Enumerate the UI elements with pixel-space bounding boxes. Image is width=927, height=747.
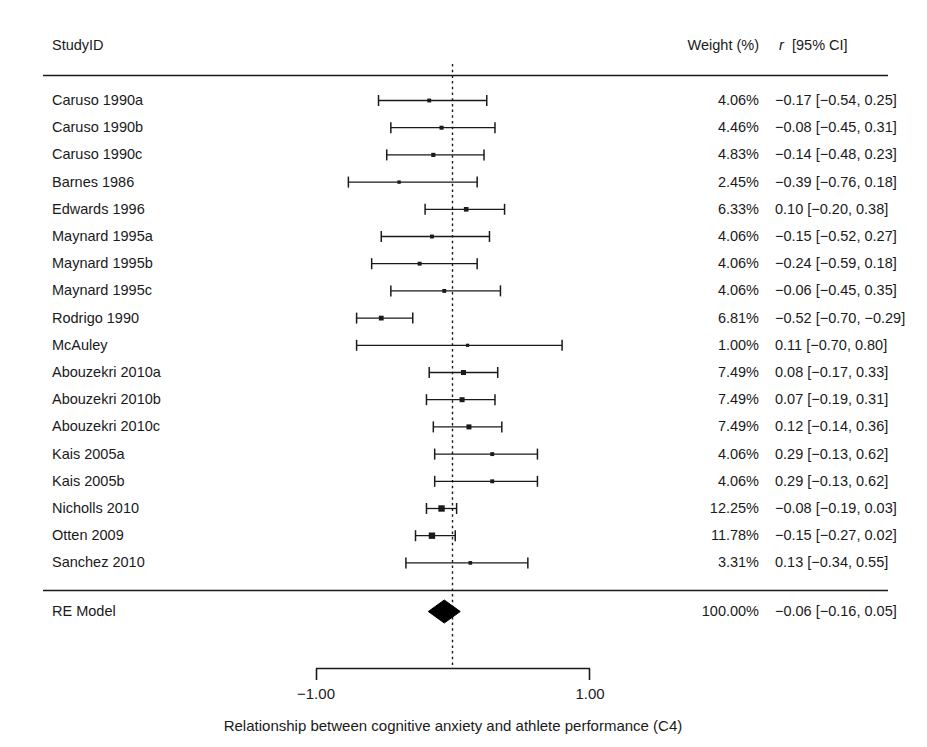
effect-point-marker — [397, 180, 400, 183]
effect-point-marker — [440, 126, 444, 130]
effect-point-marker — [464, 207, 469, 212]
study-estimate-ci: −0.15 [−0.27, 0.02] — [775, 527, 897, 543]
study-weight: 4.06% — [718, 92, 759, 108]
study-label: Caruso 1990c — [52, 146, 142, 162]
effect-point-marker — [466, 424, 471, 429]
summary-diamond — [428, 600, 460, 623]
study-weight: 4.83% — [718, 146, 759, 162]
study-weight: 4.06% — [718, 282, 759, 298]
study-label: Abouzekri 2010a — [52, 364, 162, 380]
forest-row: Rodrigo 19906.81%−0.52 [−0.70, −0.29] — [52, 310, 905, 326]
effect-point-marker — [379, 316, 384, 321]
study-label: Maynard 1995a — [52, 228, 154, 244]
x-axis: −1.00 1.00 — [297, 669, 605, 703]
study-label: Otten 2009 — [52, 527, 124, 543]
forest-row: Abouzekri 2010b7.49%0.07 [−0.19, 0.31] — [52, 391, 888, 407]
study-label: Rodrigo 1990 — [52, 310, 139, 326]
study-weight: 7.49% — [718, 418, 759, 434]
figure-caption: Relationship between cognitive anxiety a… — [224, 717, 683, 734]
axis-tick-label-right: 1.00 — [575, 685, 604, 702]
summary-weight: 100.00% — [702, 603, 759, 619]
summary-estimate: −0.06 [−0.16, 0.05] — [775, 603, 897, 619]
study-label: Abouzekri 2010c — [52, 418, 160, 434]
study-estimate-ci: 0.11 [−0.70, 0.80] — [775, 337, 887, 353]
study-label: Edwards 1996 — [52, 201, 145, 217]
forest-row: Kais 2005a4.06%0.29 [−0.13, 0.62] — [52, 446, 888, 462]
forest-row: Caruso 1990b4.46%−0.08 [−0.45, 0.31] — [52, 119, 897, 135]
study-weight: 6.81% — [718, 310, 759, 326]
study-weight: 4.06% — [718, 473, 759, 489]
forest-row: Kais 2005b4.06%0.29 [−0.13, 0.62] — [52, 473, 888, 489]
study-weight: 3.31% — [718, 554, 759, 570]
axis-tick-label-left: −1.00 — [297, 685, 335, 702]
effect-point-marker — [442, 289, 446, 293]
study-estimate-ci: −0.52 [−0.70, −0.29] — [775, 310, 905, 326]
study-weight: 7.49% — [718, 364, 759, 380]
study-estimate-ci: −0.06 [−0.45, 0.35] — [775, 282, 897, 298]
header-weight: Weight (%) — [688, 37, 759, 53]
study-weight: 4.06% — [718, 255, 759, 271]
effect-point-marker — [490, 479, 494, 483]
forest-row: Barnes 19862.45%−0.39 [−0.76, 0.18] — [52, 174, 897, 190]
study-weight: 11.78% — [711, 527, 759, 543]
study-estimate-ci: −0.08 [−0.45, 0.31] — [775, 119, 897, 135]
forest-row: Abouzekri 2010a7.49%0.08 [−0.17, 0.33] — [52, 364, 888, 380]
study-label: Maynard 1995b — [52, 255, 153, 271]
forest-row: Nicholls 201012.25%−0.08 [−0.19, 0.03] — [52, 500, 897, 516]
forest-row: Caruso 1990a4.06%−0.17 [−0.54, 0.25] — [52, 92, 897, 108]
forest-row: Sanchez 20103.31%0.13 [−0.34, 0.55] — [52, 554, 888, 570]
study-weight: 4.06% — [718, 228, 759, 244]
effect-point-marker — [438, 505, 444, 511]
effect-point-marker — [490, 452, 494, 456]
study-label: Nicholls 2010 — [52, 500, 139, 516]
study-estimate-ci: 0.29 [−0.13, 0.62] — [775, 473, 888, 489]
forest-row: Otten 200911.78%−0.15 [−0.27, 0.02] — [52, 527, 897, 543]
study-label: Abouzekri 2010b — [52, 391, 161, 407]
study-estimate-ci: 0.07 [−0.19, 0.31] — [775, 391, 888, 407]
effect-point-marker — [427, 99, 431, 103]
study-estimate-ci: 0.13 [−0.34, 0.55] — [775, 554, 888, 570]
study-estimate-ci: −0.24 [−0.59, 0.18] — [775, 255, 897, 271]
header-estimate-ci: [95% CI] — [792, 37, 848, 53]
effect-point-marker — [429, 533, 435, 539]
study-estimate-ci: 0.12 [−0.14, 0.36] — [775, 418, 888, 434]
study-label: Sanchez 2010 — [52, 554, 145, 570]
forest-plot-canvas: StudyID Weight (%) r [95% CI] Caruso 199… — [0, 0, 927, 747]
study-label: Kais 2005b — [52, 473, 125, 489]
study-label: Caruso 1990b — [52, 119, 143, 135]
forest-row: McAuley1.00%0.11 [−0.70, 0.80] — [52, 337, 887, 353]
forest-row: Maynard 1995a4.06%−0.15 [−0.52, 0.27] — [52, 228, 897, 244]
study-weight: 6.33% — [718, 201, 759, 217]
effect-point-marker — [430, 235, 434, 239]
effect-point-marker — [461, 370, 466, 375]
study-weight: 1.00% — [718, 337, 759, 353]
study-weight: 7.49% — [718, 391, 759, 407]
study-estimate-ci: 0.10 [−0.20, 0.38] — [775, 201, 888, 217]
forest-row: Edwards 19966.33%0.10 [−0.20, 0.38] — [52, 201, 888, 217]
study-weight: 4.46% — [718, 119, 759, 135]
effect-point-marker — [468, 561, 472, 565]
study-weight: 4.06% — [718, 446, 759, 462]
study-estimate-ci: −0.08 [−0.19, 0.03] — [775, 500, 897, 516]
effect-point-marker — [418, 262, 422, 266]
study-weight: 12.25% — [710, 500, 759, 516]
study-label: Caruso 1990a — [52, 92, 144, 108]
study-estimate-ci: 0.08 [−0.17, 0.33] — [775, 364, 888, 380]
header-studyid: StudyID — [52, 37, 104, 53]
forest-row: Abouzekri 2010c7.49%0.12 [−0.14, 0.36] — [52, 418, 888, 434]
study-estimate-ci: −0.17 [−0.54, 0.25] — [775, 92, 897, 108]
forest-row: Maynard 1995b4.06%−0.24 [−0.59, 0.18] — [52, 255, 897, 271]
study-weight: 2.45% — [718, 174, 759, 190]
study-estimate-ci: −0.14 [−0.48, 0.23] — [775, 146, 897, 162]
study-rows: Caruso 1990a4.06%−0.17 [−0.54, 0.25]Caru… — [52, 92, 905, 570]
effect-point-marker — [466, 344, 469, 347]
summary-row: RE Model 100.00% −0.06 [−0.16, 0.05] — [52, 600, 897, 623]
forest-row: Maynard 1995c4.06%−0.06 [−0.45, 0.35] — [52, 282, 897, 298]
study-label: Maynard 1995c — [52, 282, 152, 298]
forest-row: Caruso 1990c4.83%−0.14 [−0.48, 0.23] — [52, 146, 897, 162]
summary-label: RE Model — [52, 603, 116, 619]
effect-point-marker — [431, 153, 435, 157]
study-estimate-ci: 0.29 [−0.13, 0.62] — [775, 446, 888, 462]
effect-point-marker — [460, 397, 465, 402]
study-estimate-ci: −0.15 [−0.52, 0.27] — [775, 228, 897, 244]
